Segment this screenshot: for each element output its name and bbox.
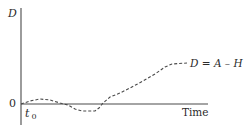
- t0-label-subscript: 0: [31, 112, 36, 121]
- curve-label: D = A – H: [190, 58, 243, 69]
- origin-zero-label: 0: [9, 98, 16, 109]
- t0-label-base: t: [25, 107, 29, 120]
- y-axis-label: D: [8, 8, 17, 19]
- t0-label: t0: [25, 108, 37, 121]
- x-axis-label: Time: [182, 107, 209, 118]
- diagram: D 0 t0 Time D = A – H: [0, 0, 249, 131]
